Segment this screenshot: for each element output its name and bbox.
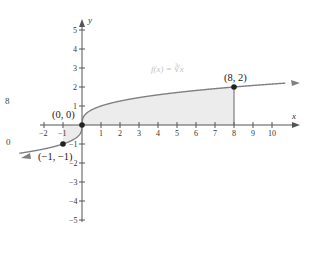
point-origin <box>79 122 85 128</box>
curve-right-arrow-icon <box>291 80 300 86</box>
x-tick-label: 10 <box>268 129 276 138</box>
x-tick-label: 1 <box>99 129 103 138</box>
point-label-8-2: (8, 2) <box>224 72 247 84</box>
y-tick-label: 5 <box>73 26 77 35</box>
x-tick-label: 4 <box>156 129 160 138</box>
y-tick-label: 3 <box>73 64 77 73</box>
x-tick-label: −1 <box>58 129 67 138</box>
y-axis-label: y <box>87 15 92 25</box>
y-axis-arrow-icon <box>79 19 85 27</box>
point-label-neg1-neg1: (−1, −1) <box>38 151 73 163</box>
y-tick-label: −3 <box>69 178 78 187</box>
y-tick-label: 2 <box>73 83 77 92</box>
cropped-fragment-0: 0 <box>6 137 11 147</box>
cube-root-graph: −2−112345678910 −5−4−3−2−112345 x y f(x)… <box>0 0 313 256</box>
x-tick-label: 5 <box>175 129 179 138</box>
point-neg1-neg1 <box>60 141 66 147</box>
x-tick-label: −2 <box>39 129 48 138</box>
x-tick-label: 7 <box>213 129 217 138</box>
x-tick-label: 2 <box>118 129 122 138</box>
x-tick-label: 9 <box>251 129 255 138</box>
cropped-fragment-8: 8 <box>5 96 10 106</box>
x-tick-label: 6 <box>194 129 198 138</box>
point-8-2 <box>231 84 237 90</box>
y-tick-label: −4 <box>69 197 78 206</box>
point-label-origin: (0, 0) <box>52 109 75 121</box>
x-tick-label: 3 <box>137 129 141 138</box>
function-label: f(x) = ∛x <box>151 63 184 74</box>
x-axis-label: x <box>291 111 296 121</box>
x-tick-label: 8 <box>232 129 236 138</box>
y-tick-label: −5 <box>69 216 78 225</box>
curve-left-arrow-icon <box>21 153 31 159</box>
x-axis-arrow-icon <box>292 122 300 128</box>
y-tick-label: 4 <box>73 45 77 54</box>
